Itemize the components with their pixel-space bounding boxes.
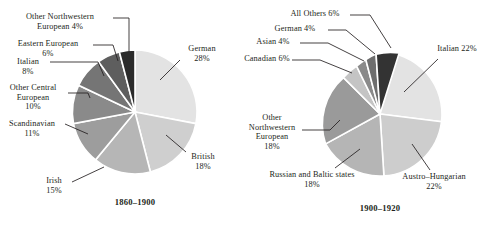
label-british: British18% — [182, 152, 224, 171]
label-line: Northwestern — [249, 123, 295, 132]
label-line: European — [256, 132, 289, 141]
label-line: Austro–Hungarian — [402, 172, 465, 181]
label-line: Canadian 6% — [244, 54, 290, 63]
label-german: German28% — [180, 44, 224, 63]
label-line: Eastern European — [18, 39, 78, 48]
caption-1860-1900: 1860–1900 — [85, 197, 185, 207]
label-russian-and-baltic-states: Russian and Baltic states18% — [260, 170, 364, 189]
label-line: Italian 22% — [437, 44, 477, 53]
label-line: German — [188, 44, 215, 53]
label-austro-hungarian: Austro–Hungarian22% — [388, 172, 480, 191]
pie-svg-left — [0, 0, 242, 230]
label-line: British — [191, 152, 214, 161]
leader-german — [328, 30, 375, 54]
pie-slices-right — [322, 52, 442, 176]
label-scandinavian: Scandinavian11% — [0, 119, 64, 138]
label-line: 18% — [195, 162, 211, 171]
label-italian: Italian 22% — [430, 44, 484, 54]
label-line: 18% — [304, 180, 320, 189]
slice-austro-hungarian — [380, 114, 442, 176]
label-line: 11% — [24, 129, 39, 138]
label-canadian: Canadian 6% — [242, 54, 292, 64]
label-line: Asian 4% — [256, 37, 289, 46]
pie-slices-left — [72, 50, 197, 174]
label-eastern-european: Eastern European6% — [4, 39, 92, 58]
label-other-northwestern-european: Other NorthwesternEuropean 4% — [8, 12, 112, 31]
label-german: German 4% — [262, 24, 328, 34]
pie-chart-1900-1920: All Others 6% German 4% Asian 4% Canadia… — [242, 0, 484, 230]
label-other-northwestern-european: OtherNorthwesternEuropean18% — [242, 113, 302, 151]
label-other-central-european: Other CentralEuropean10% — [0, 83, 66, 112]
label-line: Italian — [17, 57, 39, 66]
label-line: Other Central — [10, 83, 57, 92]
label-line: Irish — [46, 176, 62, 185]
caption-1900-1920: 1900–1920 — [330, 203, 430, 213]
label-all-others: All Others 6% — [280, 9, 350, 19]
leader-irish — [72, 167, 104, 182]
label-asian: Asian 4% — [246, 37, 300, 47]
label-line: Other Northwestern — [26, 12, 94, 21]
pie-chart-1860-1900: Other NorthwesternEuropean 4% Eastern Eu… — [0, 0, 242, 230]
label-line: 28% — [194, 54, 210, 63]
leader-asian — [300, 43, 364, 61]
label-line: Russian and Baltic states — [269, 170, 354, 179]
leader-other-northwestern-european — [113, 18, 129, 52]
label-line: 22% — [426, 182, 442, 191]
label-line: 8% — [22, 67, 33, 76]
label-line: All Others 6% — [290, 9, 339, 18]
leader-canadian — [292, 60, 352, 73]
label-line: German 4% — [275, 24, 316, 33]
label-line: 15% — [46, 186, 62, 195]
leader-all-others — [350, 15, 391, 48]
label-line: Other — [262, 113, 281, 122]
label-line: European — [17, 93, 50, 102]
label-line: European 4% — [37, 22, 83, 31]
label-italian: Italian8% — [8, 57, 48, 76]
label-line: Scandinavian — [9, 119, 55, 128]
label-irish: Irish15% — [38, 176, 70, 195]
label-line: 10% — [25, 102, 41, 111]
label-line: 18% — [264, 142, 280, 151]
